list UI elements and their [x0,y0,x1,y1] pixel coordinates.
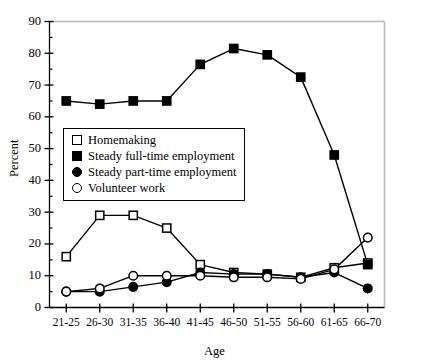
legend-item: Homemaking [69,132,237,148]
legend-item: Steady part-time employment [69,164,237,180]
chart-container: 0102030405060708090 21-2526-3031-3536-40… [0,0,429,364]
y-axis-tick-label: 0 [8,301,41,314]
y-axis-title: Percent [8,128,21,188]
x-axis-tick-label: 66-70 [343,317,393,329]
legend-item-label: Steady full-time employment [88,150,235,163]
legend-item-label: Steady part-time employment [88,166,237,179]
legend-item: Volunteer work [69,180,237,196]
legend-item: Steady full-time employment [69,148,237,164]
x-axis-title: Age [0,345,429,358]
filled-circle-icon [69,165,85,179]
legend-item-label: Volunteer work [88,182,165,195]
y-axis-tick-label: 30 [8,206,41,219]
y-axis-tick-label: 70 [8,79,41,92]
y-axis-tick-label: 10 [8,269,41,282]
open-circle-icon [69,181,85,195]
y-axis-tick-label: 20 [8,237,41,250]
y-axis-tick-label: 80 [8,47,41,60]
y-axis-tick-label: 60 [8,110,41,123]
open-square-icon [69,133,85,147]
chart-legend: HomemakingSteady full-time employmentSte… [63,128,245,201]
legend-item-label: Homemaking [88,134,156,147]
y-axis-tick-label: 90 [8,15,41,28]
filled-square-icon [69,149,85,163]
